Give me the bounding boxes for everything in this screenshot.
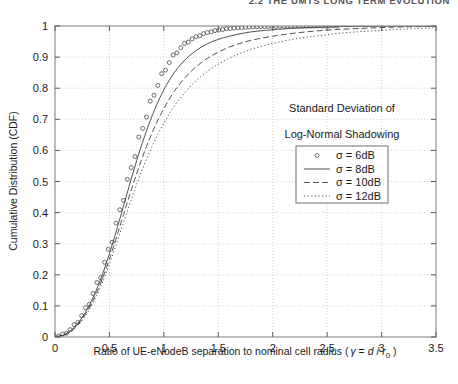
- data-marker: [160, 72, 164, 76]
- data-marker: [129, 166, 133, 170]
- legend-label: σ = 10dB: [336, 176, 381, 188]
- data-marker: [198, 34, 202, 38]
- y-tick-label: 0.1: [33, 300, 48, 312]
- data-marker: [190, 37, 194, 41]
- data-marker: [228, 26, 232, 30]
- data-marker: [171, 53, 175, 57]
- data-marker: [194, 35, 198, 39]
- y-axis-label: Cumulative Distribution (CDF): [7, 111, 19, 250]
- data-marker: [156, 83, 160, 87]
- data-marker: [221, 28, 225, 32]
- data-marker: [186, 40, 190, 44]
- y-tick-label: 0.7: [33, 113, 48, 125]
- x-axis-label-slash: /: [373, 345, 382, 357]
- y-tick-label: 0.9: [33, 51, 48, 63]
- data-marker: [137, 135, 141, 139]
- x-axis-label-eq: =: [356, 345, 368, 357]
- legend-label: σ = 8dB: [336, 163, 375, 175]
- data-marker: [183, 41, 187, 45]
- data-marker: [263, 25, 267, 29]
- y-tick-label: 0.8: [33, 82, 48, 94]
- x-tick-label: 0: [52, 342, 58, 354]
- data-marker: [125, 177, 129, 181]
- data-marker: [179, 46, 183, 50]
- annotation-line-1: Standard Deviation of: [289, 102, 396, 114]
- data-marker: [209, 30, 213, 34]
- data-marker: [114, 221, 118, 225]
- y-tick-labels: 00.10.20.30.40.50.60.70.80.91: [33, 20, 48, 343]
- data-marker: [106, 247, 110, 251]
- data-marker: [202, 32, 206, 36]
- x-axis-label-text: Ratio of UE-eNodeB separation to nominal…: [93, 345, 349, 357]
- data-marker: [255, 25, 259, 29]
- x-axis-label: Ratio of UE-eNodeB separation to nominal…: [93, 345, 396, 360]
- y-tick-label: 0.2: [33, 269, 48, 281]
- data-marker: [213, 29, 217, 33]
- data-marker: [163, 68, 167, 72]
- data-marker: [232, 26, 236, 30]
- y-tick-label: 0.4: [33, 207, 48, 219]
- data-marker: [95, 281, 99, 285]
- data-marker: [167, 61, 171, 65]
- data-marker: [205, 31, 209, 35]
- y-tick-label: 0: [42, 331, 48, 343]
- data-marker: [217, 28, 221, 32]
- legend-label: σ = 6dB: [336, 149, 375, 161]
- data-marker: [141, 126, 145, 130]
- annotation-line-2: Log-Normal Shadowing: [285, 128, 400, 140]
- y-tick-label: 1: [42, 20, 48, 32]
- data-marker: [133, 155, 137, 159]
- figure-cdf-plot: 00.511.522.533.5 00.10.20.30.40.50.60.70…: [0, 0, 458, 384]
- x-tick-label: 3.5: [428, 342, 443, 354]
- legend[interactable]: σ = 6dBσ = 8dBσ = 10dBσ = 12dB: [296, 146, 388, 203]
- data-marker: [152, 93, 156, 97]
- data-marker: [224, 27, 228, 31]
- y-tick-label: 0.5: [33, 176, 48, 188]
- chart-svg: 00.511.522.533.5 00.10.20.30.40.50.60.70…: [0, 0, 458, 384]
- x-axis-label-close: ): [390, 345, 396, 357]
- data-marker: [259, 25, 263, 29]
- data-marker: [118, 208, 122, 212]
- data-marker: [175, 51, 179, 55]
- y-tick-label: 0.3: [33, 238, 48, 250]
- y-tick-label: 0.6: [33, 144, 48, 156]
- data-marker: [148, 99, 152, 103]
- legend-label: σ = 12dB: [336, 190, 381, 202]
- data-marker: [144, 115, 148, 119]
